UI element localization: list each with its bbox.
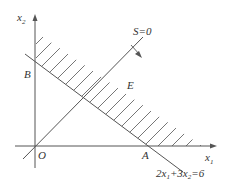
point-b-label: B: [24, 68, 31, 80]
x-axis: [15, 144, 217, 149]
lp-diagram: x2 x1 O B A E S=0 2x1+3x2=6: [0, 0, 229, 187]
feasible-region-hatching: [20, 30, 229, 180]
y-axis-label: x2: [16, 11, 26, 26]
objective-line-label: S=0: [133, 25, 152, 37]
origin-label: O: [38, 149, 46, 161]
point-e-label: E: [126, 79, 134, 91]
constraint-line: [25, 54, 183, 172]
point-a-label: A: [141, 149, 149, 161]
x-axis-arrow-icon: [210, 144, 217, 149]
objective-line: [23, 37, 143, 159]
y-axis-arrow-icon: [33, 14, 38, 21]
x-axis-label: x1: [204, 151, 213, 166]
direction-arrow-icon: [135, 51, 142, 58]
constraint-line-label: 2x1+3x2=6: [156, 167, 205, 181]
